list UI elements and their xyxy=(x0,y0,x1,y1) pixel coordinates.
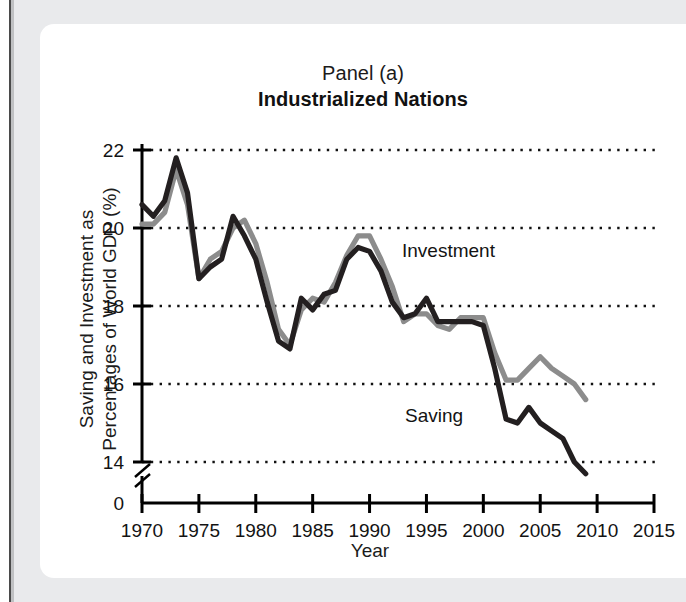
x-tick-label: 1995 xyxy=(405,520,447,541)
figure-card: Panel (a) Industrialized Nations Saving … xyxy=(40,24,686,578)
figure-page: Panel (a) Industrialized Nations Saving … xyxy=(0,0,686,602)
y-tick-group: 22201816140 xyxy=(103,140,151,514)
y-tick-label: 20 xyxy=(103,218,124,239)
series-line-saving xyxy=(142,158,586,474)
x-tick-label: 1970 xyxy=(121,520,163,541)
x-tick-label: 2005 xyxy=(519,520,561,541)
annotation-investment: Investment xyxy=(402,240,496,261)
x-tick-group: 1970197519801985199019952000200520102015 xyxy=(121,494,675,541)
x-tick-label: 2010 xyxy=(576,520,618,541)
line-chart-plot: 22201816140 1970197519801985199019952000… xyxy=(40,24,686,578)
series-line-investment xyxy=(142,170,586,400)
y-tick-label: 0 xyxy=(113,493,124,514)
y-tick-label: 18 xyxy=(103,296,124,317)
x-tick-label: 1975 xyxy=(178,520,220,541)
x-tick-label: 1985 xyxy=(292,520,334,541)
annotation-saving: Saving xyxy=(405,405,463,426)
x-tick-label: 1990 xyxy=(348,520,390,541)
x-tick-label: 2000 xyxy=(462,520,504,541)
y-tick-label: 16 xyxy=(103,374,124,395)
x-tick-label: 1980 xyxy=(235,520,277,541)
y-tick-label: 14 xyxy=(103,452,125,473)
x-tick-label: 2015 xyxy=(633,520,675,541)
y-tick-label: 22 xyxy=(103,140,124,161)
